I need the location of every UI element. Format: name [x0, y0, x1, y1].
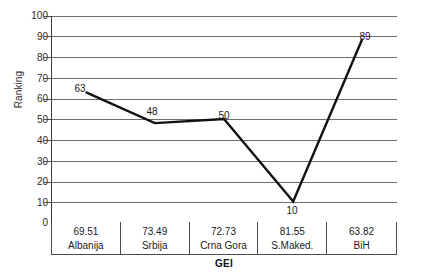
x-axis-title: GEI	[51, 258, 397, 269]
category-value-crna-gora: 72.73	[211, 226, 236, 237]
data-label-crna-gora: 50	[210, 111, 238, 121]
category-name-bih: BiH	[354, 240, 370, 251]
category-name-srbija: Srbija	[142, 240, 168, 251]
data-label-smaked: 10	[278, 206, 306, 216]
category-table: 69.51 Albanija 73.49 Srbija 72.73 Crna G…	[51, 222, 397, 255]
category-name-albanija: Albanija	[68, 240, 104, 251]
data-label-albanija: 63	[66, 84, 94, 94]
category-cell-srbija: 73.49 Srbija	[121, 222, 190, 254]
category-value-albanija: 69.51	[73, 226, 98, 237]
category-name-smaked: S.Maked.	[271, 240, 313, 251]
category-cell-crna-gora: 72.73 Crna Gora	[190, 222, 259, 254]
line-chart: Ranking 100 90 80 70 60 50 40 30 20 10 0…	[0, 0, 422, 276]
category-value-srbija: 73.49	[142, 226, 167, 237]
category-cell-smaked: 81.55 S.Maked.	[258, 222, 327, 254]
category-cell-albanija: 69.51 Albanija	[52, 222, 121, 254]
data-label-srbija: 48	[138, 107, 166, 117]
data-label-bih: 89	[351, 32, 379, 42]
category-value-bih: 63.82	[349, 226, 374, 237]
category-cell-bih: 63.82 BiH	[327, 222, 396, 254]
category-value-smaked: 81.55	[280, 226, 305, 237]
category-name-crna-gora: Crna Gora	[200, 240, 247, 251]
